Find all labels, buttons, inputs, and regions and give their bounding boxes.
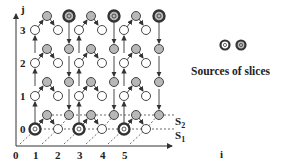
- source-gray: [154, 11, 165, 22]
- source-white: [30, 124, 41, 135]
- source-gray: [109, 11, 120, 22]
- y-tick-2: 2: [20, 58, 26, 69]
- x-tick-2: 2: [55, 150, 61, 161]
- x-axis-label: i: [220, 149, 223, 160]
- legend-label: Sources of slices: [191, 65, 270, 77]
- x-tick-3: 3: [77, 150, 83, 161]
- diagonal-edges: [38, 19, 143, 126]
- dependence-graph: [0, 0, 284, 167]
- y-tick-0: 0: [20, 124, 26, 135]
- y-tick-3: 3: [20, 25, 26, 36]
- source-gray: [64, 11, 75, 22]
- x-tick-5: 5: [122, 150, 128, 161]
- source-white: [74, 124, 85, 135]
- y-tick-1: 1: [20, 91, 26, 102]
- legend-source-icons: [221, 41, 246, 50]
- x-tick-1: 1: [33, 150, 39, 161]
- y-axis-label: j: [21, 4, 25, 15]
- x-tick-4: 4: [100, 150, 106, 161]
- x-tick-0: 0: [13, 150, 19, 161]
- source-white: [119, 124, 130, 135]
- slice-label-s1: S1: [175, 130, 185, 144]
